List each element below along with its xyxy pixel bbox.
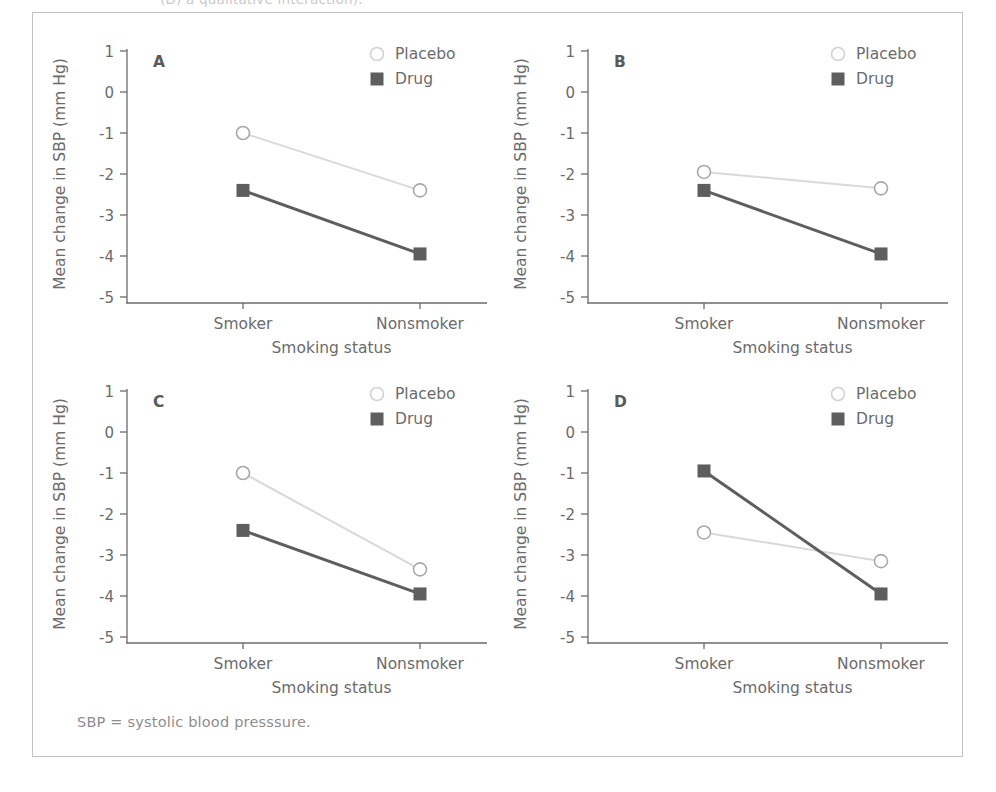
y-axis-title: Mean change in SBP (mm Hg) — [512, 58, 530, 290]
y-tick-label: 0 — [565, 84, 575, 102]
panel-letter: D — [614, 393, 627, 411]
y-axis-title: Mean change in SBP (mm Hg) — [51, 398, 69, 630]
panel-letter: C — [153, 393, 164, 411]
series-line-drug — [704, 471, 881, 594]
x-category-label: Nonsmoker — [837, 655, 926, 673]
data-point-drug[interactable] — [414, 247, 427, 260]
data-point-drug[interactable] — [237, 524, 250, 537]
panel-letter: A — [153, 53, 165, 71]
legend-marker-placebo — [832, 48, 845, 61]
legend-marker-placebo — [371, 48, 384, 61]
chart-b: 10-1-2-3-4-5SmokerNonsmokerSmoking statu… — [496, 29, 962, 369]
data-point-placebo[interactable] — [698, 526, 711, 539]
legend-label-drug: Drug — [395, 70, 433, 88]
x-axis-title: Smoking status — [272, 679, 392, 697]
data-point-placebo[interactable] — [875, 555, 888, 568]
x-category-label: Nonsmoker — [837, 315, 926, 333]
y-tick-label: 1 — [565, 43, 575, 61]
y-tick-label: -4 — [560, 248, 575, 266]
legend-marker-drug — [371, 73, 384, 86]
legend-label-placebo: Placebo — [856, 45, 917, 63]
legend-label-placebo: Placebo — [395, 385, 456, 403]
data-point-drug[interactable] — [414, 587, 427, 600]
panel-letter: B — [614, 53, 626, 71]
y-axis-title: Mean change in SBP (mm Hg) — [512, 398, 530, 630]
legend-label-drug: Drug — [856, 70, 894, 88]
legend-marker-placebo — [371, 388, 384, 401]
y-tick-label: -3 — [560, 547, 575, 565]
panel-a: 10-1-2-3-4-5SmokerNonsmokerSmoking statu… — [35, 29, 501, 369]
series-line-drug — [243, 530, 420, 594]
y-tick-label: 0 — [565, 424, 575, 442]
legend-label-drug: Drug — [395, 410, 433, 428]
series-line-drug — [243, 190, 420, 254]
y-tick-label: -3 — [560, 207, 575, 225]
y-tick-label: 1 — [104, 383, 114, 401]
clipped-caption-strip: (D) a qualitative interaction). — [0, 0, 996, 11]
legend-label-drug: Drug — [856, 410, 894, 428]
y-tick-label: -3 — [99, 207, 114, 225]
data-point-drug[interactable] — [875, 247, 888, 260]
data-point-placebo[interactable] — [237, 467, 250, 480]
figure-frame: 10-1-2-3-4-5SmokerNonsmokerSmoking statu… — [32, 12, 963, 757]
legend-marker-drug — [832, 73, 845, 86]
x-category-label: Smoker — [214, 315, 273, 333]
y-tick-label: -1 — [99, 125, 114, 143]
series-line-placebo — [243, 133, 420, 190]
data-point-placebo[interactable] — [414, 563, 427, 576]
y-tick-label: -5 — [99, 289, 114, 307]
x-axis-title: Smoking status — [733, 679, 853, 697]
legend-marker-placebo — [832, 388, 845, 401]
y-tick-label: -2 — [560, 506, 575, 524]
x-category-label: Nonsmoker — [376, 315, 465, 333]
x-category-label: Smoker — [675, 315, 734, 333]
y-tick-label: 0 — [104, 424, 114, 442]
y-tick-label: -1 — [560, 465, 575, 483]
panel-d: 10-1-2-3-4-5SmokerNonsmokerSmoking statu… — [496, 369, 962, 709]
data-point-drug[interactable] — [875, 587, 888, 600]
x-category-label: Smoker — [675, 655, 734, 673]
chart-a: 10-1-2-3-4-5SmokerNonsmokerSmoking statu… — [35, 29, 501, 369]
data-point-drug[interactable] — [237, 184, 250, 197]
series-line-placebo — [704, 172, 881, 188]
y-tick-label: -5 — [99, 629, 114, 647]
series-line-placebo — [243, 473, 420, 569]
data-point-placebo[interactable] — [414, 184, 427, 197]
x-axis-title: Smoking status — [733, 339, 853, 357]
legend-label-placebo: Placebo — [395, 45, 456, 63]
y-tick-label: 0 — [104, 84, 114, 102]
data-point-placebo[interactable] — [237, 127, 250, 140]
x-category-label: Smoker — [214, 655, 273, 673]
clipped-caption-text: (D) a qualitative interaction). — [160, 0, 363, 7]
series-line-drug — [704, 190, 881, 254]
y-tick-label: -4 — [560, 588, 575, 606]
y-axis-title: Mean change in SBP (mm Hg) — [51, 58, 69, 290]
y-tick-label: -1 — [560, 125, 575, 143]
y-tick-label: -3 — [99, 547, 114, 565]
legend-marker-drug — [371, 413, 384, 426]
panel-b: 10-1-2-3-4-5SmokerNonsmokerSmoking statu… — [496, 29, 962, 369]
legend-label-placebo: Placebo — [856, 385, 917, 403]
series-line-placebo — [704, 532, 881, 561]
x-axis-title: Smoking status — [272, 339, 392, 357]
y-tick-label: -2 — [99, 506, 114, 524]
figure-note: SBP = systolic blood presssure. — [77, 714, 311, 730]
data-point-placebo[interactable] — [875, 182, 888, 195]
data-point-placebo[interactable] — [698, 165, 711, 178]
y-tick-label: -1 — [99, 465, 114, 483]
panel-c: 10-1-2-3-4-5SmokerNonsmokerSmoking statu… — [35, 369, 501, 709]
y-tick-label: -2 — [560, 166, 575, 184]
y-tick-label: -4 — [99, 588, 114, 606]
y-tick-label: -2 — [99, 166, 114, 184]
y-tick-label: 1 — [104, 43, 114, 61]
chart-d: 10-1-2-3-4-5SmokerNonsmokerSmoking statu… — [496, 369, 962, 709]
chart-c: 10-1-2-3-4-5SmokerNonsmokerSmoking statu… — [35, 369, 501, 709]
y-tick-label: -4 — [99, 248, 114, 266]
data-point-drug[interactable] — [698, 184, 711, 197]
legend-marker-drug — [832, 413, 845, 426]
x-category-label: Nonsmoker — [376, 655, 465, 673]
y-tick-label: -5 — [560, 629, 575, 647]
y-tick-label: 1 — [565, 383, 575, 401]
data-point-drug[interactable] — [698, 464, 711, 477]
y-tick-label: -5 — [560, 289, 575, 307]
